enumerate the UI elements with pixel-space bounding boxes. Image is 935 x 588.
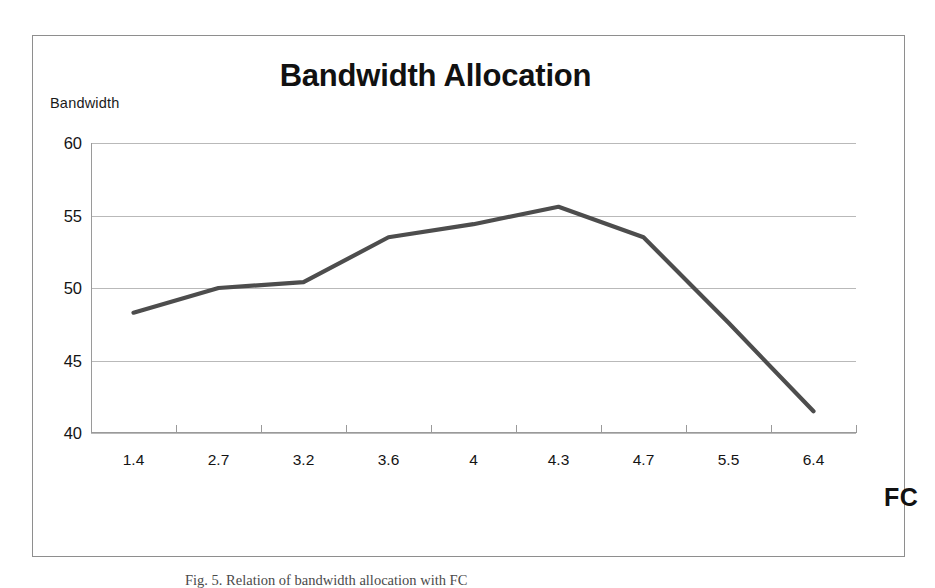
x-axis-title: FC: [884, 483, 918, 512]
data-series-line: [91, 143, 856, 433]
x-axis-tick: [856, 425, 857, 433]
figure-caption: Fig. 5. Relation of bandwidth allocation…: [185, 572, 745, 588]
x-axis-tick-label: 5.5: [718, 451, 740, 469]
y-axis-tick-label: 50: [64, 279, 82, 298]
figure-frame: Bandwidth Allocation Bandwidth 404550556…: [32, 35, 905, 557]
y-axis-tick-label: 45: [64, 351, 82, 370]
x-axis-tick-label: 1.4: [123, 451, 145, 469]
x-axis-tick-label: 4.7: [633, 451, 655, 469]
y-axis-title: Bandwidth: [50, 95, 120, 111]
plot-area: 4045505560 1.42.73.23.644.34.75.56.4: [91, 143, 856, 433]
gridline: [91, 433, 856, 434]
chart-title: Bandwidth Allocation: [0, 58, 871, 94]
y-axis-tick-label: 40: [64, 424, 82, 443]
x-axis-tick-label: 4: [469, 451, 478, 469]
x-axis-tick-label: 6.4: [803, 451, 825, 469]
x-axis-tick-label: 4.3: [548, 451, 570, 469]
x-axis-tick-label: 3.6: [378, 451, 400, 469]
x-axis-tick-label: 2.7: [208, 451, 230, 469]
y-axis-tick-label: 60: [64, 134, 82, 153]
y-axis-tick-label: 55: [64, 206, 82, 225]
x-axis-tick-label: 3.2: [293, 451, 315, 469]
